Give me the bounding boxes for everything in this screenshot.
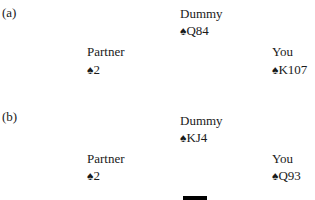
partner-holding: ♠2 (87, 168, 100, 184)
partner-holding: ♠2 (87, 62, 100, 78)
diagram-label: (b) (2, 109, 17, 124)
you-holding: ♠K107 (272, 62, 307, 78)
diagram-label: (a) (2, 5, 16, 20)
partner-cards: 2 (93, 62, 100, 77)
dummy-label: Dummy (180, 113, 223, 128)
you-cards: Q93 (278, 168, 300, 183)
you-cards: K107 (278, 62, 307, 77)
partner-cards: 2 (93, 168, 100, 183)
you-label: You (272, 151, 293, 166)
dummy-cards: KJ4 (186, 130, 207, 145)
dummy-holding: ♠Q84 (180, 23, 209, 39)
dummy-cards: Q84 (186, 23, 208, 38)
partner-label: Partner (87, 151, 125, 166)
dummy-label: Dummy (180, 6, 223, 21)
dummy-holding: ♠KJ4 (180, 130, 207, 146)
you-label: You (272, 44, 293, 59)
partner-label: Partner (87, 44, 125, 59)
you-holding: ♠Q93 (272, 168, 301, 184)
played-card-marker (183, 196, 207, 200)
